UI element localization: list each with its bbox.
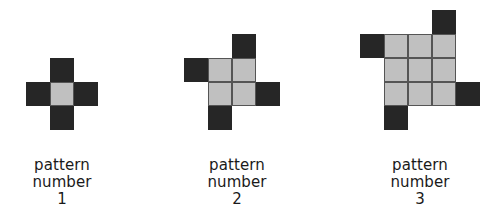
pattern-2-gray-square <box>232 82 256 106</box>
pattern-2-dark-square <box>184 58 208 82</box>
pattern-3-gray-square <box>384 58 408 82</box>
pattern-3-dark-square <box>456 82 480 106</box>
pattern-3-gray-square <box>432 58 456 82</box>
pattern-sequence-figure: patternnumber1patternnumber2patternnumbe… <box>0 0 502 214</box>
pattern-3-label-line-2: number <box>340 174 500 191</box>
pattern-3-gray-square <box>408 58 432 82</box>
pattern-2-gray-square <box>208 82 232 106</box>
pattern-3-gray-square <box>432 82 456 106</box>
pattern-2-gray-square <box>232 58 256 82</box>
pattern-1-label-line-1: pattern <box>0 157 142 174</box>
pattern-3-dark-square <box>384 106 408 130</box>
pattern-3-gray-square <box>408 82 432 106</box>
pattern-2-gray-square <box>208 58 232 82</box>
pattern-3-dark-square <box>432 10 456 34</box>
pattern-2-label-line-2: number <box>157 174 317 191</box>
pattern-2-dark-square <box>232 34 256 58</box>
pattern-1-dark-square <box>50 58 74 82</box>
pattern-2-label-line-3: 2 <box>157 191 317 208</box>
pattern-3-gray-square <box>408 34 432 58</box>
pattern-2-dark-square <box>208 106 232 130</box>
pattern-3-label-line-3: 3 <box>340 191 500 208</box>
pattern-3-label-line-1: pattern <box>340 157 500 174</box>
pattern-3-dark-square <box>360 34 384 58</box>
pattern-1-label: patternnumber1 <box>0 157 142 208</box>
pattern-3-gray-square <box>384 34 408 58</box>
pattern-1-dark-square <box>26 82 50 106</box>
pattern-2-shape <box>184 34 280 130</box>
pattern-3-gray-square <box>432 34 456 58</box>
pattern-1-label-line-3: 1 <box>0 191 142 208</box>
pattern-2-label-line-1: pattern <box>157 157 317 174</box>
pattern-2-dark-square <box>256 82 280 106</box>
pattern-3-shape <box>360 10 480 130</box>
pattern-3-label: patternnumber3 <box>340 157 500 208</box>
pattern-2-label: patternnumber2 <box>157 157 317 208</box>
pattern-1-dark-square <box>50 106 74 130</box>
pattern-1-label-line-2: number <box>0 174 142 191</box>
pattern-3-gray-square <box>384 82 408 106</box>
pattern-1-dark-square <box>74 82 98 106</box>
pattern-1-gray-square <box>50 82 74 106</box>
pattern-1-shape <box>26 58 98 130</box>
